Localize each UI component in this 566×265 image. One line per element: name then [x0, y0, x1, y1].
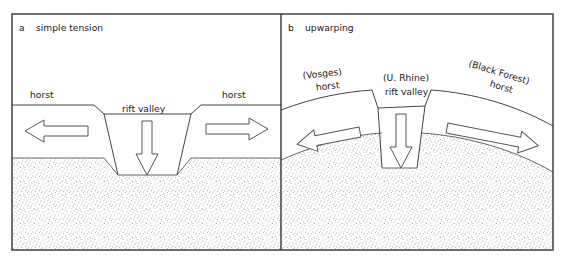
label-horst-right-a: horst: [222, 89, 246, 100]
panel-a: a simple tension horst rift valley horst: [12, 14, 281, 250]
panel-a-title: simple tension: [36, 22, 103, 33]
panel-b: b upwarping (Vosges) horst (U. Rhine) ri…: [281, 14, 553, 250]
rift-valley-diagram: a simple tension horst rift valley horst: [0, 0, 566, 265]
figure-root: a simple tension horst rift valley horst: [0, 0, 566, 265]
panel-b-id: b: [288, 22, 294, 33]
label-rhine-line1: (U. Rhine): [383, 72, 429, 83]
label-rhine-line2: rift valley: [385, 86, 429, 97]
label-rift-valley-a: rift valley: [122, 103, 166, 114]
panel-b-title: upwarping: [305, 22, 354, 33]
label-horst-left-a: horst: [30, 89, 54, 100]
panel-a-id: a: [19, 22, 25, 33]
